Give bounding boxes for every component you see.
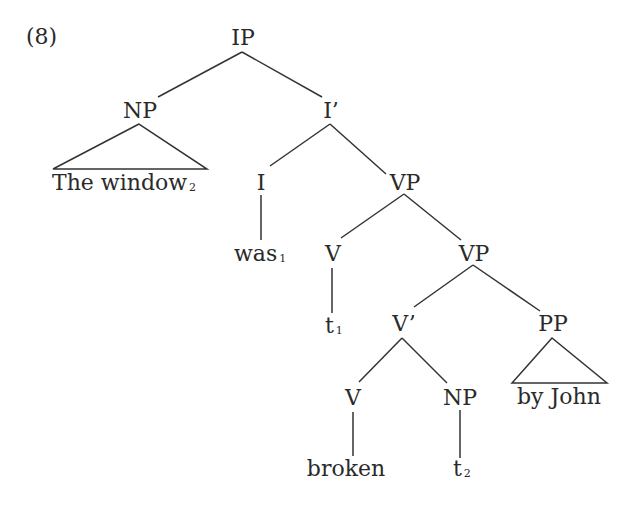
terminal-by-john: by John (517, 385, 601, 409)
edge-vbar-v (359, 338, 402, 382)
edge-vp-vbar (414, 265, 473, 307)
index-subscript: 1 (336, 324, 343, 337)
example-number: (8) (26, 25, 57, 49)
terminal-t2-text: t (453, 456, 462, 481)
node-v-lower: V (345, 386, 361, 410)
edge-ibar-vp (330, 124, 386, 174)
terminal-broken: broken (307, 457, 385, 481)
node-pp: PP (538, 312, 568, 336)
node-np-object: NP (443, 386, 477, 410)
index-subscript: 2 (464, 467, 471, 480)
pp-triangle (512, 338, 607, 383)
index-subscript: 1 (279, 252, 286, 265)
terminal-t1-text: t (325, 313, 334, 338)
node-np-subject: NP (123, 99, 157, 123)
terminal-was-text: was (234, 241, 277, 266)
edge-vbar-np (402, 338, 447, 383)
terminal-was: was1 (234, 242, 286, 271)
edge-vp-pp (473, 265, 540, 311)
node-ip: IP (231, 26, 255, 50)
edge-vp-vp (404, 194, 461, 240)
terminal-the-window-text: The window (52, 170, 187, 195)
edge-vp-v (341, 194, 404, 238)
edge-ip-np (158, 52, 242, 97)
edge-ibar-i (270, 124, 330, 166)
edge-ip-ibar (242, 52, 322, 97)
tree-edges (0, 0, 643, 505)
terminal-the-window: The window2 (52, 171, 196, 200)
node-vp-lower: VP (459, 242, 490, 266)
node-i: I (257, 171, 266, 195)
terminal-t1: t1 (325, 314, 343, 343)
index-subscript: 2 (189, 181, 196, 194)
node-vp-upper: VP (390, 171, 421, 195)
node-v-upper: V (325, 242, 341, 266)
np-subject-triangle (53, 124, 207, 169)
node-i-bar: I’ (323, 99, 339, 123)
node-v-bar: V’ (392, 312, 416, 336)
terminal-t2: t2 (453, 457, 471, 486)
